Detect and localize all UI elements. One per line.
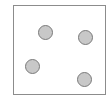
circle-dot-icon	[77, 72, 92, 87]
circle-dot-icon	[38, 25, 53, 40]
dot-frame	[13, 5, 106, 95]
circle-dot-icon	[78, 30, 93, 45]
circle-dot-icon	[25, 59, 40, 74]
